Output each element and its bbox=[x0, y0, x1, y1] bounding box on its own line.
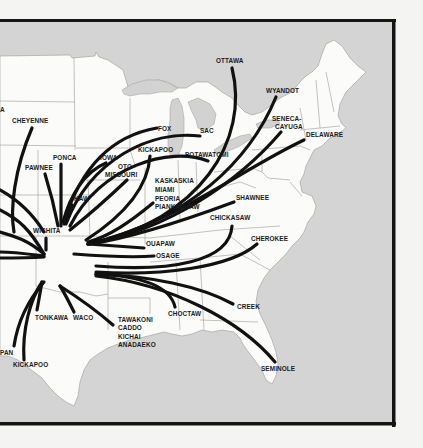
label-miami: MIAMI bbox=[155, 186, 174, 193]
label-tawakoni: TAWAKONI bbox=[118, 316, 153, 323]
label-wichita: WICHITA bbox=[33, 227, 61, 234]
label-seneca-cayuga-1: SENECA- bbox=[272, 115, 301, 122]
label-wyandot: WYANDOT bbox=[266, 87, 299, 94]
label-cherokee: CHEROKEE bbox=[251, 235, 289, 242]
label-edge: A bbox=[0, 106, 5, 113]
label-seminole: SEMINOLE bbox=[261, 365, 296, 372]
label-osage: OSAGE bbox=[156, 252, 180, 259]
label-sac: SAC bbox=[200, 127, 214, 134]
removal-map: CHEYENNE PONCA PAWNEE IOWA OTO- MISSOURI… bbox=[0, 0, 423, 448]
label-delaware: DELAWARE bbox=[306, 131, 344, 138]
label-tonkawa: TONKAWA bbox=[35, 314, 69, 321]
label-oto-missouri-2: MISSOURI bbox=[105, 171, 138, 178]
label-peoria: PEORIA bbox=[155, 195, 180, 202]
label-oto-missouri-1: OTO- bbox=[118, 163, 134, 170]
label-chickasaw: CHICKASAW bbox=[210, 214, 251, 221]
label-kickapoo-south: KICKAPOO bbox=[13, 361, 48, 368]
label-pawnee: PAWNEE bbox=[25, 164, 53, 171]
label-waco: WACO bbox=[73, 314, 93, 321]
label-seneca-cayuga-2: CAYUGA bbox=[275, 123, 303, 130]
map-canvas: CHEYENNE PONCA PAWNEE IOWA OTO- MISSOURI… bbox=[0, 0, 423, 448]
label-kickapoo-north: KICKAPOO bbox=[138, 146, 173, 153]
label-fox: FOX bbox=[158, 125, 172, 132]
label-lipan: PAN bbox=[0, 349, 14, 356]
label-kaskaskia: KASKASKIA bbox=[155, 177, 194, 184]
label-shawnee: SHAWNEE bbox=[236, 194, 270, 201]
label-ponca: PONCA bbox=[53, 154, 77, 161]
label-choctaw: CHOCTAW bbox=[168, 310, 202, 317]
route-west-4 bbox=[0, 257, 44, 258]
label-ottawa: OTTAWA bbox=[216, 57, 244, 64]
label-kaw: KAW bbox=[74, 195, 90, 202]
label-potawatomi: POTAWATOMI bbox=[185, 151, 229, 158]
label-piankashaw: PIANKASHAW bbox=[155, 203, 201, 210]
label-caddo: CADDO bbox=[118, 324, 142, 331]
label-creek: CREEK bbox=[237, 303, 260, 310]
label-iowa: IOWA bbox=[100, 154, 118, 161]
label-kichai: KICHAI bbox=[118, 333, 141, 340]
label-ouapaw: OUAPAW bbox=[146, 240, 176, 247]
label-cheyenne: CHEYENNE bbox=[12, 117, 49, 124]
label-anadaeko: ANADAEKO bbox=[118, 341, 156, 348]
